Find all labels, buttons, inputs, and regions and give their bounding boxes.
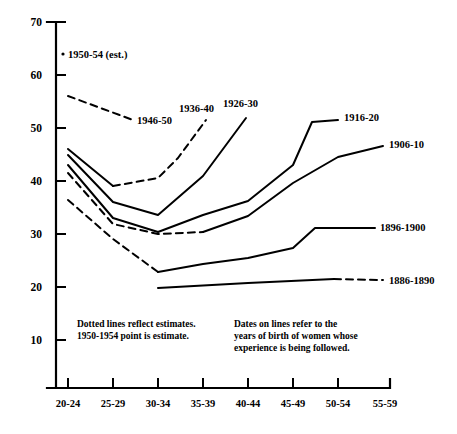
series-label-1896-1900[interactable]: 1896-1900 — [380, 222, 426, 233]
x-axis-line — [56, 379, 390, 388]
est-point-annotation: 1950-54 (est.) — [61, 49, 128, 61]
x-ticks-group — [68, 378, 338, 388]
x-tick-label-45-49: 45-49 — [281, 398, 306, 409]
y-ticks-group — [56, 22, 66, 340]
x-tick-label-30-34: 30-34 — [146, 398, 171, 409]
chart-container: 70 60 50 40 30 20 10 20-24 25-29 30-34 3… — [0, 0, 457, 434]
y-tick-label-30: 30 — [31, 228, 43, 240]
series-1946-50-path[interactable] — [68, 96, 133, 120]
series-1886-1890[interactable] — [158, 279, 383, 288]
series-1946-50[interactable] — [68, 96, 133, 120]
x-tick-label-25-29: 25-29 — [101, 398, 126, 409]
note-right-line-3: experience is being followed. — [234, 343, 350, 353]
series-1886-1890-solid[interactable] — [158, 279, 334, 288]
series-1896-1900[interactable] — [68, 200, 375, 272]
series-1906-10[interactable] — [68, 146, 383, 234]
series-labels-group: 1946-50 1936-40 1926-30 1916-20 1906-10 … — [137, 98, 435, 286]
x-tick-labels-group: 20-24 25-29 30-34 35-39 40-44 45-49 50-5… — [56, 398, 398, 409]
series-1926-30[interactable] — [68, 118, 246, 215]
est-point-dot — [61, 52, 64, 55]
series-1936-40-dashed[interactable] — [113, 120, 206, 186]
series-1936-40-solid[interactable] — [68, 149, 113, 186]
x-tick-label-50-54: 50-54 — [326, 398, 351, 409]
y-axis-line — [47, 22, 56, 388]
y-tick-label-10: 10 — [31, 334, 43, 346]
note-left: Dotted lines reflect estimates. 1950-195… — [77, 319, 196, 341]
note-left-line-2: 1950-1954 point is estimate. — [77, 331, 189, 341]
series-1906-10-solid[interactable] — [203, 146, 383, 232]
series-1886-1890-dashed[interactable] — [334, 279, 383, 280]
x-tick-label-40-44: 40-44 — [236, 398, 261, 409]
y-tick-label-40: 40 — [31, 175, 43, 187]
y-tick-label-20: 20 — [31, 281, 43, 293]
note-left-line-1: Dotted lines reflect estimates. — [77, 319, 196, 329]
y-tick-label-50: 50 — [31, 122, 43, 134]
y-tick-label-70: 70 — [31, 16, 43, 28]
series-label-1886-1890[interactable]: 1886-1890 — [389, 275, 435, 286]
series-label-1906-10[interactable]: 1906-10 — [389, 139, 424, 150]
y-tick-label-60: 60 — [31, 69, 43, 81]
series-1896-1900-solid[interactable] — [158, 228, 375, 272]
note-right-line-1: Dates on lines refer to the — [234, 319, 337, 329]
line-chart-svg: 70 60 50 40 30 20 10 20-24 25-29 30-34 3… — [0, 0, 457, 434]
y-tick-labels-group: 70 60 50 40 30 20 10 — [31, 16, 43, 346]
note-right: Dates on lines refer to the years of bir… — [234, 319, 358, 353]
series-label-1936-40[interactable]: 1936-40 — [179, 103, 214, 114]
series-label-1926-30[interactable]: 1926-30 — [223, 98, 258, 109]
series-label-1916-20[interactable]: 1916-20 — [344, 112, 379, 123]
series-1926-30-path[interactable] — [68, 118, 246, 215]
x-tick-label-35-39: 35-39 — [191, 398, 216, 409]
est-point-label: 1950-54 (est.) — [68, 49, 128, 61]
x-tick-label-20-24: 20-24 — [56, 398, 81, 409]
x-tick-label-55-59: 55-59 — [373, 398, 398, 409]
note-right-line-2: years of birth of women whose — [234, 331, 358, 341]
series-label-1946-50[interactable]: 1946-50 — [137, 115, 172, 126]
